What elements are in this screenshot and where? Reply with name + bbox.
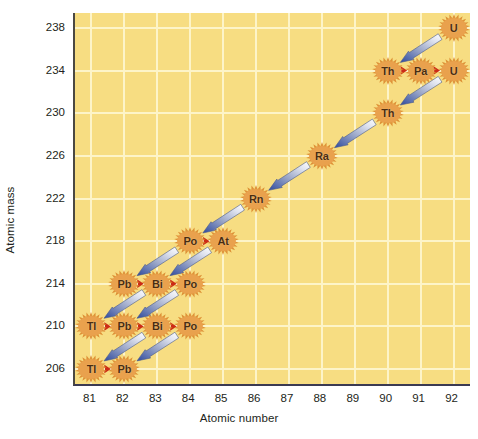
y-tick-label: 230: [31, 106, 65, 118]
nuclide-symbol: Bi: [152, 278, 163, 290]
nuclide-symbol: Th: [381, 107, 394, 119]
x-tick-label: 89: [336, 392, 370, 404]
nuclide-marker: Th: [373, 100, 403, 126]
nuclide-symbol: Pb: [118, 320, 132, 332]
nuclide-marker: At: [208, 228, 238, 254]
nuclide-marker: Rn: [241, 186, 271, 212]
y-tick-label: 222: [31, 192, 65, 204]
x-tick-label: 88: [303, 392, 337, 404]
nuclide-marker: Tl: [76, 313, 106, 339]
nuclide-symbol: Tl: [87, 363, 96, 375]
nuclide-symbol: Pb: [118, 278, 132, 290]
alpha-decay-arrow: [334, 119, 376, 148]
nuclide-symbol: Po: [183, 235, 197, 247]
alpha-decay-arrow: [269, 162, 311, 191]
y-tick-label: 226: [31, 149, 65, 161]
nuclide-symbol: At: [218, 235, 229, 247]
x-tick-label: 90: [369, 392, 403, 404]
y-axis-title-text: Atomic mass: [4, 186, 16, 253]
x-tick-label: 84: [171, 392, 205, 404]
nuclide-marker: U: [439, 15, 469, 41]
nuclide-marker: Pb: [109, 313, 139, 339]
nuclide-symbol: U: [450, 22, 458, 34]
nuclide-marker: Tl: [76, 356, 106, 382]
nuclide-marker: Pb: [109, 356, 139, 382]
y-tick-label: 234: [31, 64, 65, 76]
x-tick-label: 82: [105, 392, 139, 404]
nuclide-marker: Bi: [142, 271, 172, 297]
nuclide-symbol: Pb: [118, 363, 132, 375]
nuclide-symbol: U: [450, 65, 458, 77]
x-tick-label: 85: [204, 392, 238, 404]
nuclide-marker: Po: [175, 271, 205, 297]
nuclide-symbol: Rn: [249, 193, 263, 205]
nuclide-symbol: Ra: [315, 150, 329, 162]
x-tick-label: 81: [72, 392, 106, 404]
nuclide-marker: U: [439, 58, 469, 84]
nuclide-marker: Ra: [307, 143, 337, 169]
nuclide-marker: Pa: [406, 58, 436, 84]
nuclide-marker: Po: [175, 228, 205, 254]
nuclide-marker: Th: [373, 58, 403, 84]
nuclide-symbol: Po: [183, 320, 197, 332]
nuclide-symbol: Pa: [414, 65, 427, 77]
plot-area: UThPaUThRaRnPoAtPbBiPoTlPbBiPoTlPb: [73, 13, 470, 386]
x-tick-label: 86: [237, 392, 271, 404]
nuclide-marker: Po: [175, 313, 205, 339]
nuclide-marker: Bi: [142, 313, 172, 339]
y-tick-label: 210: [31, 319, 65, 331]
nuclide-symbol: Bi: [152, 320, 163, 332]
y-tick-label: 218: [31, 234, 65, 246]
x-axis-title: Atomic number: [0, 412, 478, 424]
x-tick-label: 87: [270, 392, 304, 404]
x-tick-label: 83: [138, 392, 172, 404]
nuclide-symbol: Th: [381, 65, 394, 77]
nuclide-symbol: Po: [183, 278, 197, 290]
x-tick-label: 91: [402, 392, 436, 404]
y-tick-label: 214: [31, 277, 65, 289]
y-tick-label: 238: [31, 21, 65, 33]
y-tick-label: 206: [31, 362, 65, 374]
y-axis-title: Atomic mass: [0, 0, 20, 439]
nuclide-symbol: Tl: [87, 320, 96, 332]
nuclide-marker: Pb: [109, 271, 139, 297]
decay-series-chart: Atomic mass Atomic number 20621021421822…: [0, 0, 478, 439]
x-tick-label: 92: [435, 392, 469, 404]
